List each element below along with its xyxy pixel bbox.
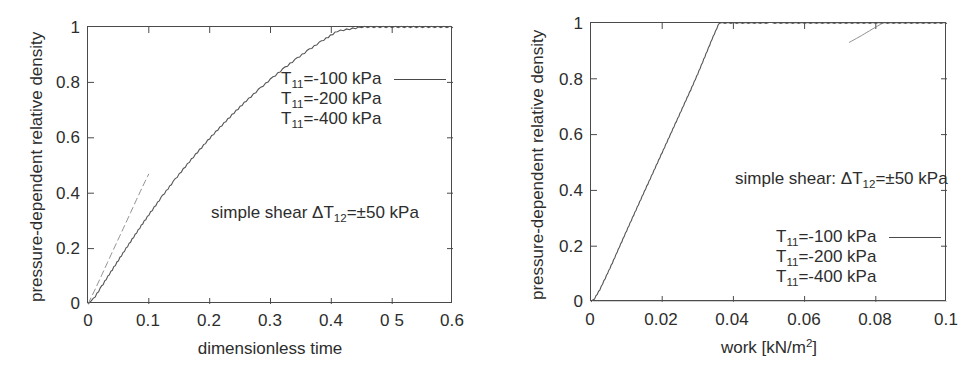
legend-left: T11=-100 kPa T11=-200 kPa T11=-400 kPa xyxy=(281,69,446,129)
x-tick-label: 0.06 xyxy=(787,311,821,328)
plot-frame-left xyxy=(87,26,452,303)
y-tick-label: 1 xyxy=(561,15,583,32)
legend-item-label: T11=-200 kPa xyxy=(281,88,381,110)
annotation-simple-shear: simple shear: ΔT12=±50 kPa xyxy=(735,170,948,187)
y-tick-label: 0.8 xyxy=(41,74,80,91)
x-tick-label: 0.3 xyxy=(258,312,282,329)
legend-item-label: T11=-400 kPa xyxy=(776,266,876,288)
legend-line-sample xyxy=(889,237,941,238)
y-tick-label: 0.2 xyxy=(544,238,583,255)
y-tick-marks-right xyxy=(591,79,947,246)
legend-line-sample xyxy=(394,119,446,120)
x-tick-label: 0.1 xyxy=(934,311,958,328)
legend-item-label: T11=-200 kPa xyxy=(776,246,876,268)
y-tick-label: 1 xyxy=(58,19,80,36)
y-tick-label: 0.6 xyxy=(544,126,583,143)
x-tick-label: 0.04 xyxy=(715,311,749,328)
legend-right: T11=-100 kPa T11=-200 kPa T11=-400 kPa xyxy=(776,227,941,287)
legend-line-sample xyxy=(394,99,446,100)
curve-t11-100-kpa xyxy=(88,26,453,304)
y-tick-label: 0.4 xyxy=(544,182,583,199)
legend-item[interactable]: T11=-400 kPa xyxy=(281,109,446,129)
y-axis-title: pressure-dependent relative density xyxy=(28,32,45,302)
x-tick-label: 0.2 xyxy=(197,312,221,329)
chart-panel-left: 1 0.8 0.6 0.4 0.2 0 0 0.1 0.2 0.3 0.4 0 … xyxy=(0,0,489,368)
x-tick-label: 0 xyxy=(83,312,93,329)
x-axis-title: dimensionless time xyxy=(198,340,343,357)
y-tick-label: 0 xyxy=(561,293,583,310)
x-tick-label: 0 5 xyxy=(380,312,404,329)
y-axis-title: pressure-dependent relative density xyxy=(529,30,546,300)
legend-item[interactable]: T11=-200 kPa xyxy=(776,247,941,267)
x-tick-label: 0.02 xyxy=(644,311,678,328)
y-tick-label: 0.8 xyxy=(544,71,583,88)
x-tick-label: 0.08 xyxy=(858,311,892,328)
curve-t11-400-kpa xyxy=(849,23,883,43)
y-tick-label: 0.4 xyxy=(41,185,80,202)
legend-item[interactable]: T11=-200 kPa xyxy=(281,89,446,109)
annotation-simple-shear: simple shear ΔT12=±50 kPa xyxy=(211,204,419,221)
x-tick-label: 0 xyxy=(585,311,595,328)
y-tick-label: 0.6 xyxy=(41,129,80,146)
legend-line-sample xyxy=(889,257,941,258)
y-tick-label: 0 xyxy=(58,295,80,312)
x-tick-label: 0.4 xyxy=(319,312,343,329)
legend-item-label: T11=-100 kPa xyxy=(776,226,876,248)
legend-item[interactable]: T11=-400 kPa xyxy=(776,267,941,287)
curve-t11-200-kpa xyxy=(88,174,149,304)
y-tick-label: 0.2 xyxy=(41,240,80,257)
x-axis-title: work [kN/m2] xyxy=(721,339,817,356)
figure-container: 1 0.8 0.6 0.4 0.2 0 0 0.1 0.2 0.3 0.4 0 … xyxy=(0,0,978,368)
legend-item[interactable]: T11=-100 kPa xyxy=(281,69,446,89)
legend-item-label: T11=-100 kPa xyxy=(281,68,381,90)
legend-line-sample xyxy=(394,79,446,80)
x-tick-label: 0.1 xyxy=(136,312,160,329)
legend-item[interactable]: T11=-100 kPa xyxy=(776,227,941,247)
legend-item-label: T11=-400 kPa xyxy=(281,108,381,130)
legend-line-sample xyxy=(889,277,941,278)
x-tick-label: 0.6 xyxy=(440,312,464,329)
chart-panel-right: 1 0.8 0.6 0.4 0.2 0 0 0.02 0.04 0.06 0.0… xyxy=(489,0,978,368)
